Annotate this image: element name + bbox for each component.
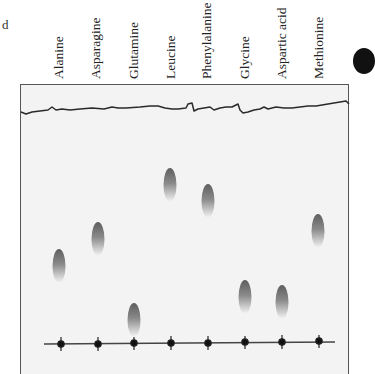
spot-phenylalanine bbox=[202, 184, 215, 218]
origin-mark-methionine bbox=[316, 335, 322, 348]
origin-mark-asparagine bbox=[95, 337, 101, 351]
spot-aspartic-acid bbox=[276, 285, 289, 319]
origin-mark-glycine bbox=[242, 336, 248, 349]
origin-line bbox=[44, 342, 335, 344]
origin-mark-glutamine bbox=[131, 337, 137, 350]
origin-mark-phenylalanine bbox=[205, 336, 211, 350]
spot-glutamine bbox=[128, 303, 141, 337]
spot-alanine bbox=[53, 249, 66, 283]
spot-leucine bbox=[164, 168, 177, 202]
spots bbox=[53, 168, 325, 337]
spot-methionine bbox=[312, 214, 325, 248]
origin-mark-alanine bbox=[58, 337, 64, 351]
solvent-front-line bbox=[21, 101, 349, 114]
spot-asparagine bbox=[92, 222, 105, 256]
spot-glycine bbox=[239, 280, 252, 314]
origin-mark-leucine bbox=[168, 336, 174, 350]
origin-mark-aspartic-acid bbox=[279, 335, 285, 349]
